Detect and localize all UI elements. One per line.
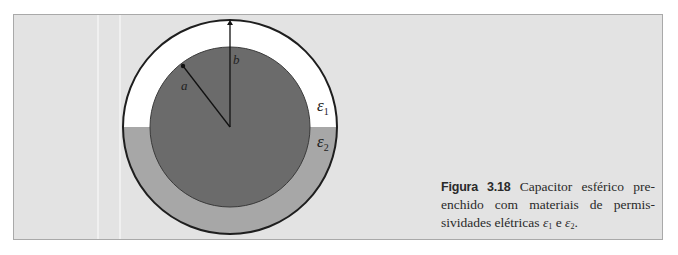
- label-b: b: [233, 52, 240, 67]
- figure-number: Figura 3.18: [441, 180, 511, 194]
- figure-caption: Figura 3.18 Capacitor esférico pre­enchi…: [441, 178, 655, 232]
- radius-a-arrowhead: [181, 64, 185, 68]
- caption-end: .: [574, 215, 577, 230]
- caption-conjunction: e: [552, 215, 565, 230]
- label-a: a: [181, 78, 188, 93]
